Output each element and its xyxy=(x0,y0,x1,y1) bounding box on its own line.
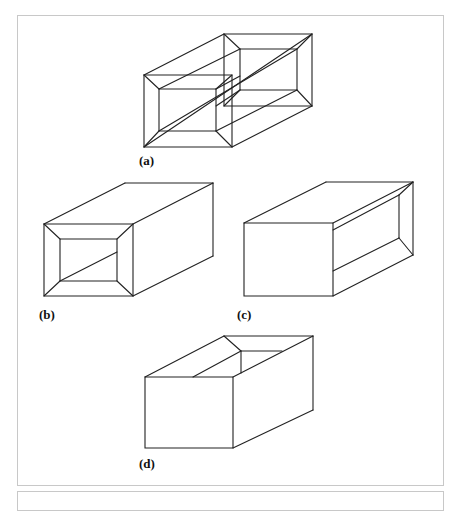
panel-b-drawing xyxy=(44,183,213,296)
panel-label-b: (b) xyxy=(39,307,55,323)
panel-a-drawing xyxy=(144,34,312,147)
panel-label-d: (d) xyxy=(139,456,155,472)
panel-d-drawing xyxy=(145,336,313,448)
panel-label-a: (a) xyxy=(139,153,154,169)
panel-c-drawing xyxy=(244,182,413,296)
panel-label-c: (c) xyxy=(237,307,251,323)
